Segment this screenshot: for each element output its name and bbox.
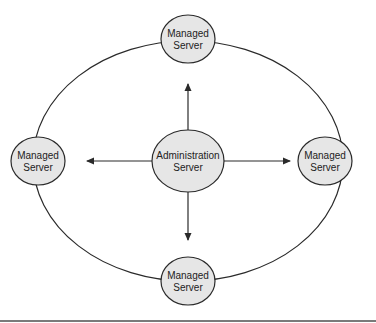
administration-server-label-line1: Administration: [156, 150, 219, 161]
managed-server-node-right: Managed Server: [298, 137, 352, 185]
managed-server-label-line1: Managed: [304, 150, 346, 161]
managed-server-label-line2: Server: [173, 40, 203, 51]
managed-server-shape: [161, 15, 215, 63]
administration-server-node: Administration Server: [152, 130, 224, 192]
administration-server-label-line2: Server: [173, 162, 203, 173]
managed-server-node-top: Managed Server: [161, 15, 215, 63]
managed-server-label-line2: Server: [310, 162, 340, 173]
administration-server-shape: [152, 130, 224, 192]
managed-server-node-left: Managed Server: [11, 137, 65, 185]
managed-server-shape: [161, 257, 215, 305]
managed-server-label-line1: Managed: [17, 150, 59, 161]
server-topology-diagram: Administration Server Managed Server Man…: [0, 0, 376, 323]
managed-server-node-bottom: Managed Server: [161, 257, 215, 305]
managed-server-shape: [298, 137, 352, 185]
managed-server-label-line1: Managed: [167, 270, 209, 281]
managed-server-label-line1: Managed: [167, 28, 209, 39]
managed-server-label-line2: Server: [23, 162, 53, 173]
managed-server-label-line2: Server: [173, 282, 203, 293]
managed-server-shape: [11, 137, 65, 185]
